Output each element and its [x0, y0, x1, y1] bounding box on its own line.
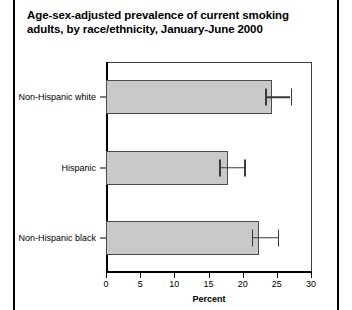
x-tick-label: 30	[306, 279, 316, 289]
error-bar-cap	[278, 229, 280, 246]
x-tick	[311, 273, 312, 278]
error-bar-line	[219, 167, 244, 169]
bar	[106, 80, 272, 114]
x-tick-label: 5	[138, 279, 143, 289]
error-bar-cap	[219, 159, 221, 176]
x-tick	[140, 273, 141, 278]
x-tick-label: 0	[103, 279, 108, 289]
x-tick	[243, 273, 244, 278]
category-label: Hispanic	[61, 163, 96, 173]
x-tick-label: 20	[238, 279, 248, 289]
right-border-rule	[337, 0, 339, 310]
error-bar-cap	[265, 89, 267, 106]
chart-figure: Age-sex-adjusted prevalence of current s…	[0, 0, 352, 310]
error-bar-line	[265, 96, 290, 98]
error-bar-cap	[252, 229, 254, 246]
x-tick-label: 15	[203, 279, 213, 289]
category-tick	[100, 167, 106, 168]
plot-frame-right	[311, 62, 312, 273]
category-label: Non-Hispanic white	[18, 92, 96, 102]
chart-title: Age-sex-adjusted prevalence of current s…	[27, 8, 327, 36]
category-tick	[100, 97, 106, 98]
x-tick	[277, 273, 278, 278]
x-tick-label: 10	[169, 279, 179, 289]
left-border-rule	[13, 0, 15, 310]
category-tick	[100, 237, 106, 238]
category-label: Non-Hispanic black	[18, 233, 96, 243]
error-bar-line	[252, 237, 278, 239]
plot-area: 051015202530 Non-Hispanic whiteHispanicN…	[106, 62, 312, 273]
x-tick-label: 25	[272, 279, 282, 289]
x-tick	[106, 273, 107, 278]
error-bar-cap	[291, 89, 293, 106]
x-tick	[174, 273, 175, 278]
x-tick	[209, 273, 210, 278]
x-axis-title: Percent	[192, 294, 225, 304]
bar	[106, 221, 259, 255]
error-bar-cap	[244, 159, 246, 176]
bar	[106, 151, 228, 185]
plot-frame-top	[106, 62, 312, 63]
